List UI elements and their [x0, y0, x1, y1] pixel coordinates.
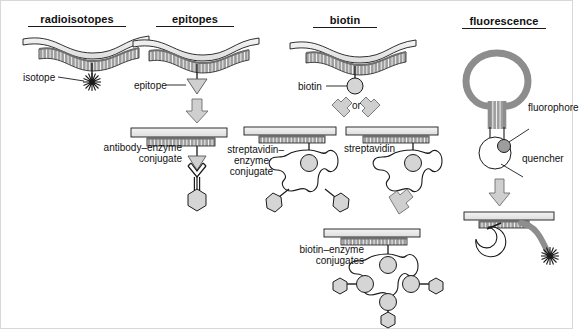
- array-slab: [131, 128, 227, 137]
- column-title-epitopes: epitopes: [156, 13, 234, 27]
- label-epitope: epitope: [134, 80, 167, 92]
- fluorophore-emission-starburst-icon: [541, 247, 559, 265]
- fluorophore-icon: [498, 140, 511, 153]
- process-arrow-down-left: [389, 189, 413, 214]
- fluorophore-leader: [509, 129, 529, 142]
- biotin-circle-icon: [380, 257, 397, 274]
- process-arrow-down: [186, 99, 208, 123]
- label-biotin-enzyme-conjugates-line2: conjugates: [291, 255, 364, 267]
- label-isotope: isotope: [23, 72, 55, 84]
- enzyme-link: [325, 189, 335, 197]
- biotin-circle-icon: [357, 276, 374, 293]
- array-slab: [346, 127, 438, 135]
- enzyme-hexagon-icon: [429, 278, 443, 294]
- enzyme-hexagon-icon: [188, 189, 206, 211]
- array-slab: [324, 229, 420, 237]
- beacon-loop: [466, 53, 528, 106]
- label-antibody-enzyme-conjugate-line1: antibody–enzyme: [94, 142, 182, 154]
- biotin-probe-group: [244, 40, 443, 328]
- biotin-circle-icon: [403, 276, 420, 293]
- column-title-radioisotopes: radioisotopes: [28, 13, 126, 27]
- array-slab: [244, 127, 336, 135]
- array-slab: [464, 212, 554, 220]
- epitopes-probe-group: [131, 38, 259, 211]
- enzyme-link: [279, 189, 289, 197]
- label-streptavidin-enzyme-conjugate-line1: streptavidin–: [219, 144, 284, 156]
- label-streptavidin: streptavidin: [344, 143, 395, 155]
- label-fluorophore: fluorophore: [528, 102, 579, 114]
- column-title-fluorescence: fluorescence: [462, 15, 546, 29]
- enzyme-hexagon-icon: [333, 278, 347, 294]
- biotin-circle-icon: [405, 155, 422, 172]
- duplex-hatch: [306, 52, 406, 75]
- isotope-leader: [58, 77, 84, 81]
- isotope-starburst-icon: [83, 73, 101, 91]
- enzyme-hexagon-icon: [266, 193, 282, 212]
- label-biotin: biotin: [298, 81, 322, 93]
- label-or: or: [352, 100, 361, 111]
- biotin-circle-icon: [380, 294, 397, 311]
- biotin-circle-icon: [347, 78, 363, 94]
- duplex-hatch: [149, 50, 249, 73]
- label-streptavidin-enzyme-conjugate-line3: conjugate: [219, 166, 284, 178]
- enzyme-hexagon-icon: [333, 193, 349, 212]
- diagram-canvas: [1, 1, 574, 329]
- quencher-crescent-icon: [476, 227, 506, 257]
- process-arrow-down: [489, 179, 510, 206]
- duplex-hatch: [39, 48, 139, 71]
- label-antibody-enzyme-conjugate-line2: conjugate: [94, 153, 182, 165]
- process-arrow-down-right: [360, 97, 380, 117]
- column-title-biotin: biotin: [313, 14, 377, 28]
- biotin-circle-icon: [301, 155, 318, 172]
- label-biotin-enzyme-conjugates-line1: biotin–enzyme: [291, 244, 364, 256]
- quencher-leader: [501, 164, 523, 177]
- process-arrow-down-left: [332, 97, 352, 117]
- epitope-triangle-icon: [187, 79, 207, 94]
- enzyme-hexagon-icon: [381, 312, 395, 328]
- label-streptavidin-enzyme-conjugate-line2: enzyme: [219, 155, 284, 167]
- label-quencher: quencher: [522, 153, 564, 165]
